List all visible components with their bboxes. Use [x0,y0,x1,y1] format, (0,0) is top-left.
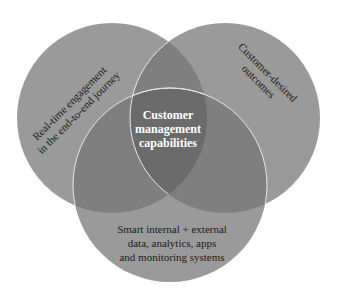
label-center-line1: Customer [143,108,194,122]
label-bottom-line1: Smart internal + external [117,223,227,235]
venn-diagram: Real-time engagement in the end-to-end j… [0,0,338,290]
label-center: Customer management capabilities [135,108,201,150]
label-bottom: Smart internal + external data, analytic… [117,223,227,263]
label-bottom-line2: data, analytics, apps [128,237,217,249]
label-center-line3: capabilities [139,136,197,150]
label-bottom-line3: and monitoring systems [119,251,224,263]
label-center-line2: management [135,122,201,136]
